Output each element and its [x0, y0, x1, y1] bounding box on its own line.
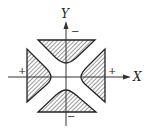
x-axis-label: X [133, 71, 142, 83]
x-axis-arrow-icon [123, 75, 131, 80]
top-sign: − [71, 27, 79, 37]
y-axis-label: Y [61, 8, 69, 20]
y-axis-arrow-icon [64, 21, 69, 29]
left-sign: + [18, 66, 26, 76]
left-region [27, 49, 51, 102]
right-region [81, 49, 105, 102]
right-sign: + [108, 66, 116, 76]
bottom-sign: − [67, 112, 75, 122]
bottom-region [38, 90, 96, 112]
